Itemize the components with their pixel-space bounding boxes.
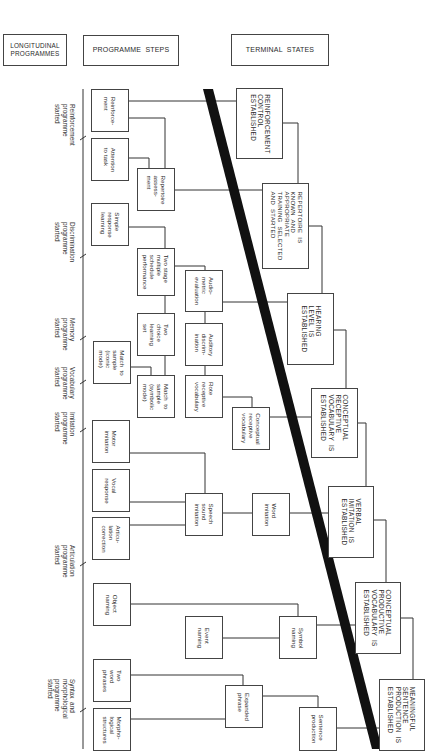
step-articulation-correction: Articu- lation correction [92,517,130,560]
header-longitudinal-label: LONGITUDINAL PROGRAMMES [10,42,60,58]
step-morphological-structures: Morpho- logical structures [93,708,131,751]
step-repertoire-assessment: Repertoire assess- ment [137,168,175,211]
header-steps-label: PROGRAMME STEPS [93,46,170,55]
terminal-hearing-level: HEARING LEVEL IS ESTABLISHED [287,293,334,365]
step-simple-response-learning: Simple response learning [91,203,129,246]
terminal-repertoire-known: REPERTOIRE IS KNOWN AND APPROPRIATE TRAI… [262,183,309,269]
programme-label-syntax: Syntax and morphological programme start… [47,679,76,719]
step-two-stage-multiple-schedule: Two stage multiple schedule performance [137,248,175,296]
step-motor-imitation: Motor imitation [92,420,130,463]
step-attention-to-task: Attention to task [91,138,129,181]
step-two-word-phrases: Two word phrases [93,659,131,702]
programme-label-reinforcement: Reinforcement programme started [54,104,76,146]
step-conceptual-receptive-vocabulary: Conceptual receptive vocabulary [232,407,270,450]
terminal-reinforcement-control: REINFORCEMENT CONTROL ESTABLISHED [236,88,283,159]
step-word-imitation: Word imitation [252,493,290,536]
step-sentence-production: Sentence production [299,707,337,751]
header-terminal-states: TERMINAL STATES [231,34,329,66]
programme-label-vocabulary: Vocabulary programme started [54,367,76,400]
step-reinforcement: Reinforce- ment [91,89,129,132]
step-vocal-response: Vocal response [92,469,130,512]
step-match-to-sample-symbolic: Match to sample (symbolic mode) [137,375,175,418]
step-symbol-naming: Symbol naming [279,616,317,659]
programme-label-memory: Memory programme started [54,318,76,351]
step-two-choice-learning-set: Two choice learning set [137,313,175,356]
header-terminal-label: TERMINAL STATES [246,46,314,55]
step-event-naming: Event naming [185,616,223,659]
step-audiometric-evaluation: Audio- metric evaluation [185,270,223,312]
terminal-verbal-imitation: VERBAL IMITATION IS ESTABLISHED [328,486,374,558]
step-expanded-phrase: Expanded phrase [225,685,263,728]
programme-label-articulation: Articulation programme started [54,545,76,578]
header-longitudinal-programmes: LONGITUDINAL PROGRAMMES [3,34,67,66]
step-auditory-discrimination: Auditory discrim- ination [185,323,223,366]
step-speech-sound-imitation: Speech sound imitation [185,493,223,536]
step-match-to-sample-iconic: Match to sample (iconic mode) [93,341,131,384]
terminal-conceptual-receptive: CONCEPTUAL RECEPTIVE VOCABULARY IS ESTAB… [311,388,358,458]
programme-label-discrimination: Discrimination programme started [54,222,76,262]
step-rote-receptive-vocabulary: Rote receptive vocabulary [185,375,223,418]
terminal-conceptual-productive: CONCEPTUAL PRODUCTIVE VOCABULARY IS ESTA… [355,582,401,654]
programme-label-imitation: Imitation programme started [54,412,76,445]
terminal-meaningful-sentence: MEANINGFUL SENTENCE PRODUCTION IS ESTABL… [379,679,425,751]
header-programme-steps: PROGRAMME STEPS [83,35,179,66]
step-object-naming: Object naming [93,583,131,626]
